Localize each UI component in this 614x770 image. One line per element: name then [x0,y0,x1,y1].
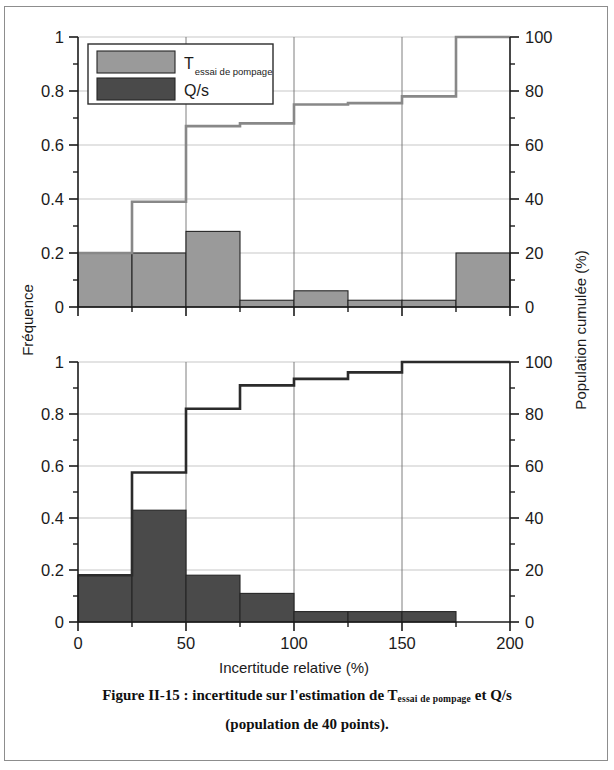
histogram-bar-top-1 [132,253,186,307]
legend-swatch-t-essai-de-pompage [97,51,175,73]
histogram-bar-bottom-0 [78,575,132,622]
histogram-bar-top-6 [402,300,456,307]
histogram-bar-bottom-6 [402,612,456,622]
caption-line-1-a: Figure II-15 : incertitude sur l'estimat… [102,687,397,703]
histogram-bar-top-3 [240,300,294,307]
ytick-label-right-bottom-0: 0 [525,613,534,631]
ytick-label-right-top-0: 0 [525,298,534,316]
ytick-label-right-top-3: 60 [525,136,543,154]
xtick-label-2: 100 [280,634,308,652]
ytick-label-right-bottom-5: 100 [525,353,553,371]
y-axis-title-right: Population cumulée (%) [572,250,589,409]
legend-label-subscript: essai de pompage [195,66,273,77]
figure-container: 00.20.40.60.8102040608010000.20.40.60.81… [0,0,614,770]
caption-line-1-b: et Q/s [471,687,512,703]
ytick-label-left-top-2: 0.4 [41,190,64,208]
histogram-bar-bottom-5 [348,612,402,622]
histogram-bar-bottom-1 [132,510,186,622]
ytick-label-left-bottom-2: 0.4 [41,509,64,527]
ytick-label-left-top-5: 1 [55,28,64,46]
ytick-label-left-bottom-3: 0.6 [41,457,64,475]
ytick-label-right-top-1: 20 [525,244,543,262]
xtick-label-1: 50 [177,634,195,652]
histogram-bar-top-2 [186,231,240,307]
ytick-label-left-bottom-1: 0.2 [41,561,64,579]
ytick-label-left-bottom-5: 1 [55,353,64,371]
histogram-bar-top-5 [348,300,402,307]
histogram-bar-top-7 [456,253,510,307]
xtick-label-3: 150 [388,634,416,652]
ytick-label-right-bottom-2: 40 [525,509,543,527]
ytick-label-right-bottom-3: 60 [525,457,543,475]
ytick-label-left-top-3: 0.6 [41,136,64,154]
ytick-label-left-top-0: 0 [55,298,64,316]
histogram-bar-bottom-4 [294,612,348,622]
ytick-label-left-bottom-0: 0 [55,613,64,631]
histogram-bar-top-0 [78,253,132,307]
histogram-bar-top-4 [294,291,348,307]
y-axis-title-left: Fréquence [19,284,36,356]
x-axis-title: Incertitude relative (%) [219,659,369,676]
ytick-label-right-top-4: 80 [525,82,543,100]
ytick-label-left-top-1: 0.2 [41,244,64,262]
histogram-bar-bottom-3 [240,593,294,622]
ytick-label-left-top-4: 0.8 [41,82,64,100]
caption-line-1: Figure II-15 : incertitude sur l'estimat… [0,683,614,712]
ytick-label-right-top-5: 100 [525,28,553,46]
legend-label-q-s: Q/s [184,82,209,99]
histogram-bar-bottom-2 [186,575,240,622]
caption-line-1-subscript: essai de pompage [398,694,471,704]
figure-caption: Figure II-15 : incertitude sur l'estimat… [0,683,614,737]
caption-line-2: (population de 40 points). [0,712,614,737]
xtick-label-0: 0 [73,634,82,652]
ytick-label-right-bottom-4: 80 [525,405,543,423]
legend-swatch-q-s [97,78,175,100]
ytick-label-right-bottom-1: 20 [525,561,543,579]
xtick-label-4: 200 [496,634,524,652]
figure-svg: 00.20.40.60.8102040608010000.20.40.60.81… [0,0,614,770]
ytick-label-left-bottom-4: 0.8 [41,405,64,423]
ytick-label-right-top-2: 40 [525,190,543,208]
